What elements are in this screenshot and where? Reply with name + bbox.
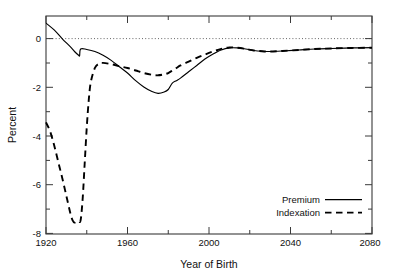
y-tick-label: -2: [33, 82, 41, 93]
x-tick-label: 1960: [117, 237, 138, 248]
series-line-premium: [46, 23, 372, 93]
y-tick-labels: 0 -2 -4 -6 -8: [33, 33, 41, 239]
chart-legend: Premium Indexation: [276, 194, 362, 218]
x-tick-label: 2000: [198, 237, 219, 248]
x-tick-label: 2040: [280, 237, 301, 248]
x-tick-labels: 1920 1960 2000 2040 2080: [35, 237, 380, 248]
legend-label-premium: Premium: [282, 194, 320, 205]
y-tick-label: 0: [36, 33, 41, 44]
y-tick-label: -6: [33, 179, 41, 190]
x-axis-title: Year of Birth: [180, 258, 238, 270]
legend-label-indexation: Indexation: [276, 207, 320, 218]
y-axis-title: Percent: [6, 107, 18, 143]
series-line-indexation: [46, 47, 372, 222]
chart-figure: 1920 1960 2000 2040 2080 0 -2 -4 -6 -8 Y…: [0, 0, 393, 280]
line-chart: 1920 1960 2000 2040 2080 0 -2 -4 -6 -8 Y…: [0, 0, 393, 280]
x-tick-label: 2080: [359, 237, 380, 248]
y-tick-label: -8: [33, 228, 41, 239]
y-tick-label: -4: [33, 131, 41, 142]
